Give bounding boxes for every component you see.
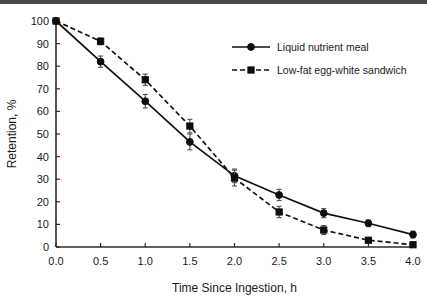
y-axis-title: Retention, % [5, 99, 19, 168]
legend-label-1: Low-fat egg-white sandwich [277, 64, 407, 76]
y-tick-label: 60 [37, 105, 49, 117]
y-tick-label: 20 [37, 196, 49, 208]
data-point-square [365, 237, 371, 243]
data-point-square [276, 209, 282, 215]
x-tick-label: 1.5 [182, 255, 197, 267]
y-tick-label: 80 [37, 60, 49, 72]
chart-plot-area: 01020304050607080901000.00.51.01.52.02.5… [0, 0, 427, 299]
data-point-circle [142, 98, 149, 105]
y-tick-label: 100 [31, 15, 49, 27]
data-point-circle [186, 139, 193, 146]
legend-label-0: Liquid nutrient meal [277, 41, 369, 53]
legend-marker-square [248, 67, 254, 73]
y-tick-label: 0 [43, 241, 49, 253]
data-point-circle [365, 220, 372, 227]
y-tick-label: 90 [37, 38, 49, 50]
x-tick-label: 3.0 [316, 255, 331, 267]
data-point-square [98, 38, 104, 44]
data-point-circle [410, 231, 417, 238]
data-point-circle [276, 192, 283, 199]
x-tick-label: 0.5 [93, 255, 108, 267]
x-tick-label: 3.5 [361, 255, 376, 267]
data-point-square [142, 77, 148, 83]
y-tick-label: 10 [37, 218, 49, 230]
x-tick-label: 4.0 [405, 255, 420, 267]
data-point-square [53, 18, 59, 24]
x-tick-label: 2.0 [227, 255, 242, 267]
y-tick-label: 50 [37, 128, 49, 140]
x-tick-label: 1.0 [138, 255, 153, 267]
series-line-0 [56, 21, 413, 235]
data-point-circle [320, 210, 327, 217]
series-line-1 [56, 21, 413, 245]
x-tick-label: 2.5 [271, 255, 286, 267]
y-tick-label: 70 [37, 83, 49, 95]
data-point-square [410, 242, 416, 248]
y-tick-label: 40 [37, 151, 49, 163]
chart-figure: 01020304050607080901000.00.51.01.52.02.5… [0, 0, 427, 299]
legend-marker-circle [248, 44, 255, 51]
data-point-square [321, 227, 327, 233]
data-point-square [231, 175, 237, 181]
data-point-square [187, 123, 193, 129]
x-tick-label: 0.0 [48, 255, 63, 267]
data-point-circle [97, 58, 104, 65]
y-tick-label: 30 [37, 173, 49, 185]
x-axis-title: Time Since Ingestion, h [172, 281, 297, 295]
